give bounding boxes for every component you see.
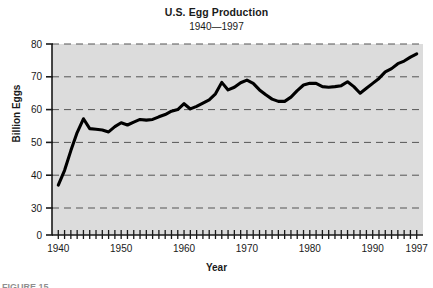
y-axis-tick-label: 60 [31, 104, 43, 115]
y-axis-tick-label: 80 [31, 39, 43, 50]
x-axis-tick-label: 1940 [47, 243, 70, 254]
y-axis-tick-label: 30 [31, 203, 43, 214]
x-axis-tick-label: 1970 [236, 243, 259, 254]
x-axis-tick-label: 1997 [406, 243, 429, 254]
x-axis-tick-label: 1950 [110, 243, 133, 254]
x-axis-tick-labels: 1940195019601970198019901997 [47, 243, 428, 254]
plot-background [52, 44, 423, 235]
y-axis-tick-label: 40 [31, 170, 43, 181]
figure-container: U.S. Egg Production 1940—1997 0304050607… [0, 0, 433, 288]
y-axis-tick-label: 50 [31, 137, 43, 148]
y-axis-label: Billion Eggs [11, 74, 22, 154]
y-axis-tick-label: 0 [36, 230, 42, 241]
x-axis-tick-label: 1980 [299, 243, 322, 254]
x-axis-tick-label: 1960 [173, 243, 196, 254]
x-axis-tick-label: 1990 [362, 243, 385, 254]
line-chart-svg: 0304050607080 19401950196019701980199019… [0, 0, 433, 288]
x-axis-label: Year [0, 262, 433, 273]
y-axis-ticks: 0304050607080 [31, 39, 53, 241]
figure-caption-clipped: FIGURE 15 [2, 282, 122, 288]
y-axis-tick-label: 70 [31, 71, 43, 82]
